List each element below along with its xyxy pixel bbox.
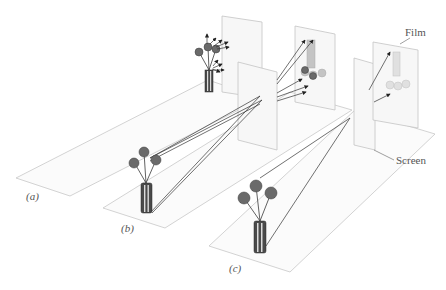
film-callout: Film (400, 26, 426, 44)
panel-label-a: (a) (26, 190, 39, 203)
film-label: Film (405, 26, 426, 38)
screen-b (238, 62, 277, 150)
panel-label-b: (b) (121, 222, 134, 235)
screen-label: Screen (396, 154, 426, 166)
panel-label-c: (c) (229, 262, 242, 275)
holography-diagram: (a) (0, 0, 446, 290)
screen-c (354, 58, 375, 150)
